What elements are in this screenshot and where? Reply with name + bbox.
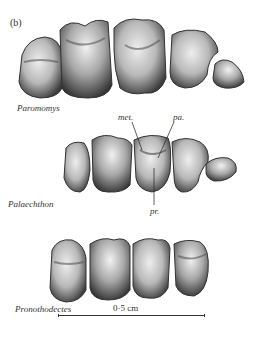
row-paromomys-teeth (19, 19, 244, 98)
row-palaechthon-teeth (64, 122, 236, 205)
tooth (172, 139, 208, 193)
scale-bar-tick-left (58, 314, 59, 317)
tooth (50, 240, 86, 302)
scale-bar (58, 315, 205, 316)
taxon-label-paromomys: Paromomys (17, 103, 60, 113)
scale-bar-tick-right (204, 314, 205, 317)
tooth (170, 30, 218, 88)
taxon-label-palaechthon: Palaechthon (8, 199, 54, 209)
tooth (92, 135, 132, 192)
tooth (64, 142, 90, 192)
taxon-label-pronothodectes: Pronothodectes (15, 304, 71, 314)
tooth (90, 239, 130, 300)
tooth (133, 239, 170, 299)
tooth (19, 37, 62, 98)
annotation-met: met. (118, 112, 133, 122)
row-pronothodectes-teeth (50, 239, 208, 302)
teeth-illustration (0, 0, 255, 337)
tooth (60, 20, 112, 98)
scale-bar-label: 0·5 cm (113, 303, 138, 313)
annotation-pr: pr. (150, 206, 159, 216)
annotation-pa: pa. (173, 112, 184, 122)
tooth (213, 60, 244, 88)
tooth (114, 19, 166, 94)
tooth (206, 158, 236, 181)
tooth (174, 240, 208, 296)
